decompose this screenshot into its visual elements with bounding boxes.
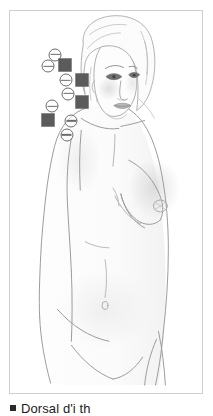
figure-root: Dorsal d'i th bbox=[0, 0, 213, 416]
torso-sketch-image bbox=[10, 11, 202, 393]
figure-caption: Dorsal d'i th bbox=[10, 401, 207, 416]
caption-text: Dorsal d'i th bbox=[21, 401, 91, 416]
caption-bullet-icon bbox=[10, 405, 16, 411]
illustration-canvas bbox=[10, 11, 202, 393]
illustration-frame bbox=[9, 10, 203, 394]
